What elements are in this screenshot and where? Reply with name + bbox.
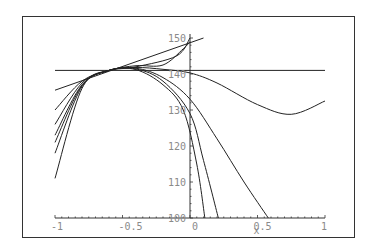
axes: [55, 34, 325, 218]
y-tick-label: 150: [168, 33, 186, 44]
chart-canvas: -1-0.500.51100110120130140150x: [0, 0, 376, 250]
x-axis-label: x: [253, 225, 259, 236]
curve-tangent-line: [55, 38, 204, 90]
curve-poly-e: [55, 68, 218, 218]
y-tick-label: 110: [168, 177, 186, 188]
curve-poly-d: [55, 68, 268, 218]
y-tick-label: 130: [168, 105, 186, 116]
y-tick-label: 120: [168, 141, 186, 152]
y-tick-label: 100: [168, 213, 186, 224]
x-tick-label: -1: [51, 221, 63, 232]
x-tick-label: -0.5: [119, 221, 143, 232]
x-tick-label: 0: [192, 221, 198, 232]
tick-labels: -1-0.500.51100110120130140150x: [51, 33, 327, 236]
y-tick-label: 140: [168, 69, 186, 80]
x-tick-label: 1: [321, 221, 327, 232]
